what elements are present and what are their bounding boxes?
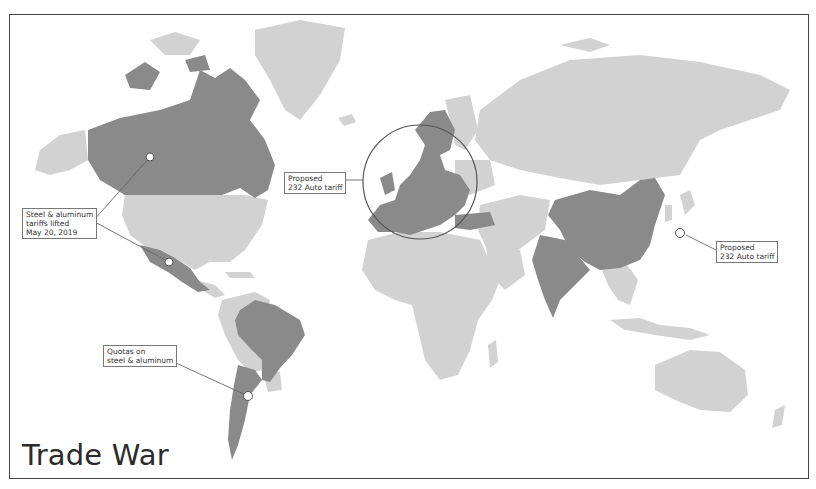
annotation-japan: Proposed 232 Auto tariff — [716, 241, 778, 263]
marker-mexico — [165, 258, 173, 266]
marker-japan — [676, 229, 685, 238]
annotation-canada-mexico: Steel & aluminum tariffs lifted May 20, … — [22, 208, 97, 239]
region-argentina — [228, 365, 262, 460]
marker-canada — [146, 153, 154, 161]
annotation-eu: Proposed 232 Auto tariff — [284, 172, 346, 194]
region-canada — [88, 55, 275, 198]
marker-argentina — [244, 392, 253, 401]
world-map — [0, 0, 816, 489]
annotation-argentina-brazil: Quotas on steel & aluminum — [103, 345, 177, 367]
map-title: Trade War — [22, 438, 169, 472]
